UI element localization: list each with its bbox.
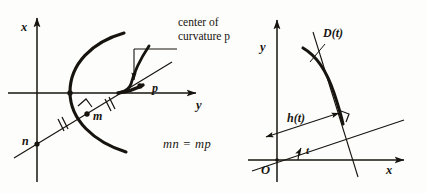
- angle-t-arc: [298, 148, 301, 160]
- point-label-p: p: [152, 82, 158, 95]
- point-curve-axis-crossing: [67, 90, 72, 95]
- angle-label-t: t: [306, 144, 309, 156]
- origin-label: O: [261, 163, 270, 177]
- equation-mn-mp: mn = mp: [163, 137, 211, 151]
- geometry-figure-svg: [0, 0, 427, 193]
- right-panel-group: [248, 20, 404, 182]
- left-panel-group: [8, 18, 196, 182]
- curve-label-Dt: D(t): [323, 27, 343, 40]
- point-label-m: m: [93, 110, 102, 123]
- tick-marks-mp: [105, 97, 115, 111]
- right-angle-ray: [252, 120, 404, 171]
- distance-label-ht: h(t): [287, 112, 305, 125]
- point-n: [34, 141, 39, 146]
- point-origin: [275, 158, 279, 162]
- point-m: [84, 111, 89, 116]
- right-y-axis-label: y: [260, 40, 266, 54]
- point-label-n: n: [22, 135, 29, 148]
- right-perpendicular-line: [313, 32, 358, 177]
- tick-marks-nm: [58, 117, 68, 131]
- figure-container: x y n m p center of curvature p mn = mp …: [0, 0, 427, 193]
- right-curve-Dt: [303, 48, 343, 124]
- left-y-axis-label: y: [196, 98, 202, 112]
- callout-line-2: curvature p: [178, 30, 230, 43]
- left-x-axis-label: x: [21, 20, 27, 34]
- right-x-axis-label: x: [386, 163, 392, 177]
- right-angle-marker-m: [78, 99, 92, 107]
- callout-line-1: center of: [178, 16, 219, 29]
- point-p: [137, 83, 142, 88]
